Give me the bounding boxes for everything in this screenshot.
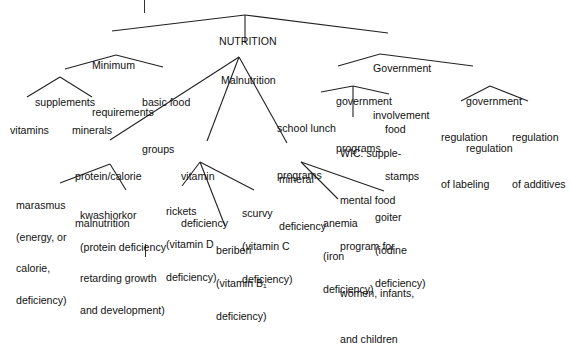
node-line: kwashiorkor: [80, 210, 166, 221]
node-line: protein/calorie: [75, 169, 142, 185]
node-line: (iodine: [375, 245, 426, 256]
node-line: minerals: [72, 123, 112, 139]
node-line: deficiency): [242, 274, 293, 285]
node-anemia: anemia (iron deficiency): [323, 196, 374, 306]
node-kwashiorkor: kwashiorkor (protein deficiency retardin…: [80, 189, 166, 326]
node-line: (iron: [323, 251, 374, 262]
node-line: basic food: [142, 95, 190, 111]
node-line: Malnutrition: [221, 73, 276, 89]
node-line: (energy, or: [16, 232, 67, 243]
node-line: (vitamin D: [166, 239, 217, 250]
node-line: goiter: [375, 212, 426, 223]
node-line: rickets: [166, 206, 217, 217]
node-line: deficiency): [323, 284, 374, 295]
node-line: deficiency): [216, 311, 267, 322]
node-line: food: [385, 122, 419, 138]
node-line: of labeling: [441, 177, 489, 193]
node-line: regulation: [441, 130, 489, 146]
node-line: deficiency): [16, 295, 67, 306]
node-line: (vitamin C: [242, 241, 293, 252]
node-regulation-of-additives: regulation of additives: [512, 99, 566, 208]
node-line: scurvy: [242, 208, 293, 219]
node-goiter: goiter (iodine deficiency): [375, 190, 426, 300]
node-regulation-of-labeling: regulation of labeling: [441, 99, 489, 208]
node-line: deficiency): [166, 272, 217, 283]
node-malnutrition: Malnutrition: [221, 42, 276, 104]
node-line: deficiency): [375, 278, 426, 289]
node-line: and development): [80, 305, 166, 316]
node-line: calorie,: [16, 263, 67, 274]
node-line: (protein deficiency: [80, 242, 166, 253]
crop-mark-top: [144, 0, 145, 13]
node-line: and children: [340, 332, 414, 347]
node-line: anemia: [323, 218, 374, 229]
node-line: vitamin: [181, 169, 228, 185]
node-line: regulation: [512, 130, 566, 146]
node-scurvy: scurvy (vitamin C deficiency): [242, 186, 293, 296]
node-food-stamps: food stamps: [385, 91, 419, 200]
node-line: vitamins: [10, 123, 49, 139]
node-line: retarding growth: [80, 273, 166, 284]
node-line: marasmus: [16, 200, 67, 211]
node-line: of additives: [512, 177, 566, 193]
node-marasmus: marasmus (energy, or calorie, deficiency…: [16, 179, 67, 316]
node-rickets: rickets (vitamin D deficiency): [166, 184, 217, 294]
node-vitamins: vitamins: [10, 92, 49, 154]
node-line: stamps: [385, 169, 419, 185]
node-line: school lunch: [277, 121, 336, 137]
node-line: government: [336, 94, 392, 110]
